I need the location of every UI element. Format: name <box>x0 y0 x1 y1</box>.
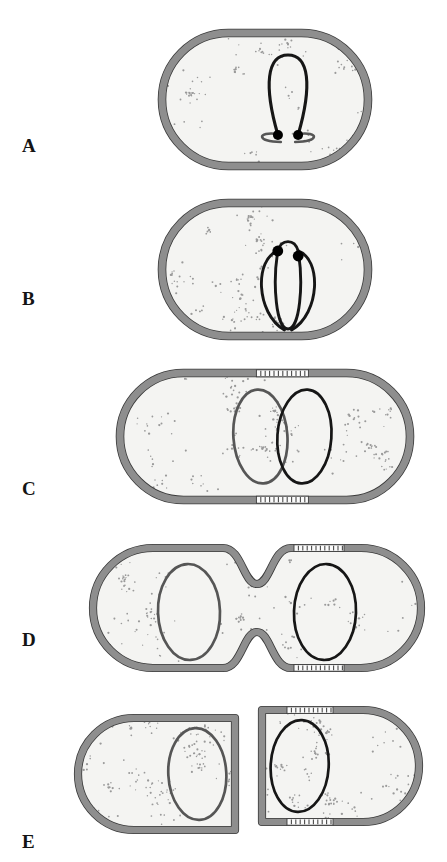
replication-fork-dot <box>293 251 304 262</box>
cell-panel-a <box>161 25 371 167</box>
replication-fork-dot <box>293 130 303 140</box>
new-wall-band-top <box>294 545 344 552</box>
cell-panel-c <box>120 358 418 503</box>
replication-fork-dot <box>273 130 283 140</box>
cell-panel-b <box>151 202 368 340</box>
bacterial-cell-cycle-figure: ABCDE <box>0 0 447 862</box>
panel-label-c: C <box>22 479 36 498</box>
panel-label-a: A <box>22 136 36 155</box>
cell-panel-e-right <box>259 707 419 825</box>
new-wall-band-top <box>287 707 333 714</box>
cell-panel-d <box>93 545 429 681</box>
panel-label-d: D <box>22 630 36 649</box>
new-wall-band-top <box>256 370 308 377</box>
cell-cycle-svg <box>0 0 447 862</box>
new-wall-band-bottom <box>294 665 344 672</box>
cell-panel-e-left <box>78 713 235 831</box>
panel-label-b: B <box>22 289 35 308</box>
new-wall-band-bottom <box>287 819 333 826</box>
replication-fork-dot <box>272 246 283 257</box>
new-wall-band-bottom <box>256 496 308 503</box>
panel-label-e: E <box>22 832 35 851</box>
